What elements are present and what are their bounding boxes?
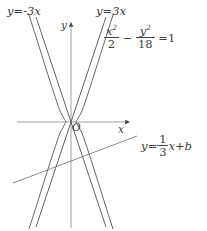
asym-pos-equals: = (103, 4, 113, 18)
hyperbola-term-2: y2 18 (136, 24, 155, 50)
line-equals-sign: = (148, 139, 158, 153)
asymptote-positive-label: y=3x (96, 6, 126, 18)
hyperbola-term-2-numerator: y2 (136, 24, 155, 38)
line-slope-fraction: 13 (157, 133, 168, 158)
hyperbola-equation-label: x2 2 − y2 18 =1 (104, 24, 175, 50)
hyperbola-term-1-exponent: 2 (113, 23, 118, 32)
line-slope-denominator: 3 (157, 146, 168, 158)
hyperbola-equals-sign: = (158, 31, 168, 45)
origin-label: O (72, 122, 81, 133)
line-constant: b (185, 139, 192, 153)
hyperbola-term-2-denominator: 18 (136, 38, 155, 50)
x-axis-label: x (118, 124, 124, 135)
hyperbola-rhs: 1 (168, 31, 175, 45)
line-plus-sign: + (175, 139, 185, 153)
hyperbola-term-1-denominator: 2 (104, 38, 119, 50)
hyperbola-figure: y=-3x y=3x x2 2 − y2 18 =1 y=13x+b y x O (0, 0, 207, 231)
secant-line (13, 136, 137, 183)
y-axis-label: y (61, 20, 67, 31)
line-equation-label: y=13x+b (141, 133, 192, 158)
asymptote-negative-label: y=-3x (7, 6, 41, 18)
asym-neg-equals: = (14, 4, 24, 18)
asym-pos-rhs: 3x (112, 4, 126, 18)
hyperbola-term-1-numerator: x2 (104, 24, 119, 38)
hyperbola-term-2-exponent: 2 (146, 23, 151, 32)
asym-neg-rhs: -3x (23, 4, 41, 18)
hyperbola-minus-sign: − (123, 31, 133, 45)
hyperbola-term-1: x2 2 (104, 24, 119, 50)
